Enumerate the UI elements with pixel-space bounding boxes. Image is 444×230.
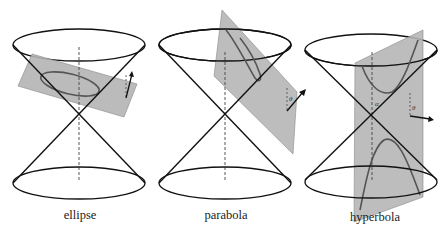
conic-sections-diagram: θ α θ	[0, 0, 444, 230]
caption-parabola: parabola	[166, 208, 286, 223]
theta-label: θ	[412, 104, 416, 112]
cutting-plane	[18, 54, 137, 117]
ellipse-panel	[13, 29, 145, 199]
caption-hyperbola: hyperbola	[315, 210, 435, 225]
arrowhead-icon	[129, 71, 134, 77]
bottom-cone-rim	[13, 167, 145, 199]
caption-ellipse: ellipse	[20, 208, 140, 223]
parabola-panel: θ	[159, 10, 306, 199]
hyperbola-panel: α θ	[305, 30, 437, 222]
alpha-label: α	[375, 100, 379, 108]
theta-label: θ	[289, 95, 293, 103]
cutting-plane	[354, 30, 423, 222]
arrowhead-icon	[428, 116, 434, 122]
bottom-cone-rim	[159, 167, 291, 199]
